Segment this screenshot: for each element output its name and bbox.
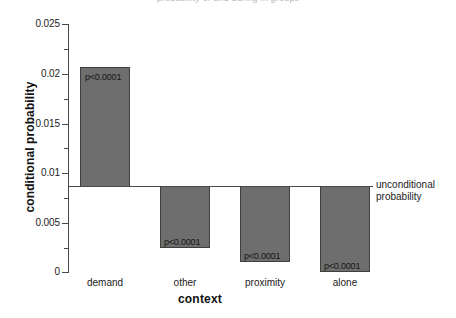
y-tick-minor-0.0075	[64, 198, 69, 199]
bar-label-proximity: p<0.0001	[244, 251, 280, 261]
y-tick-minor-0.0025	[64, 248, 69, 249]
x-tick-label-other: other	[160, 277, 210, 288]
bar-label-other: p<0.0001	[164, 237, 200, 247]
y-tick-label-0.025: 0.025	[12, 19, 60, 29]
x-tick-label-alone: alone	[320, 277, 370, 288]
y-tick-major-0.01	[62, 173, 69, 174]
y-tick-minor-0.0125	[64, 148, 69, 149]
y-tick-major-0.025	[62, 24, 69, 25]
x-axis-title: context	[0, 292, 400, 306]
y-tick-label-0: 0	[12, 267, 60, 277]
bar-demand	[80, 67, 130, 187]
unconditional-line-2: probability	[376, 191, 456, 203]
unconditional-probability-annotation: unconditional probability	[376, 179, 456, 203]
y-tick-major-0	[62, 272, 69, 273]
unconditional-line-1: unconditional	[376, 179, 456, 191]
bar-label-alone: p<0.0001	[324, 261, 360, 271]
unconditional-probability-line	[68, 186, 373, 187]
bar-chart-plot-area: 0.025 0.02 0.015 0.01 0.005 0 p<0.0001 p…	[0, 0, 456, 318]
y-tick-major-0.02	[62, 74, 69, 75]
x-tick-label-demand: demand	[80, 277, 130, 288]
y-axis-title: conditional probability	[23, 47, 37, 247]
x-tick-label-proximity: proximity	[240, 277, 290, 288]
y-tick-minor-0.0225	[64, 49, 69, 50]
y-tick-minor-0.0175	[64, 99, 69, 100]
bar-alone	[320, 186, 370, 272]
y-tick-major-0.005	[62, 223, 69, 224]
y-tick-major-0.015	[62, 124, 69, 125]
bar-label-demand: p<0.0001	[85, 72, 121, 82]
figure-container: probability of and during in groups 0.02…	[0, 0, 456, 318]
